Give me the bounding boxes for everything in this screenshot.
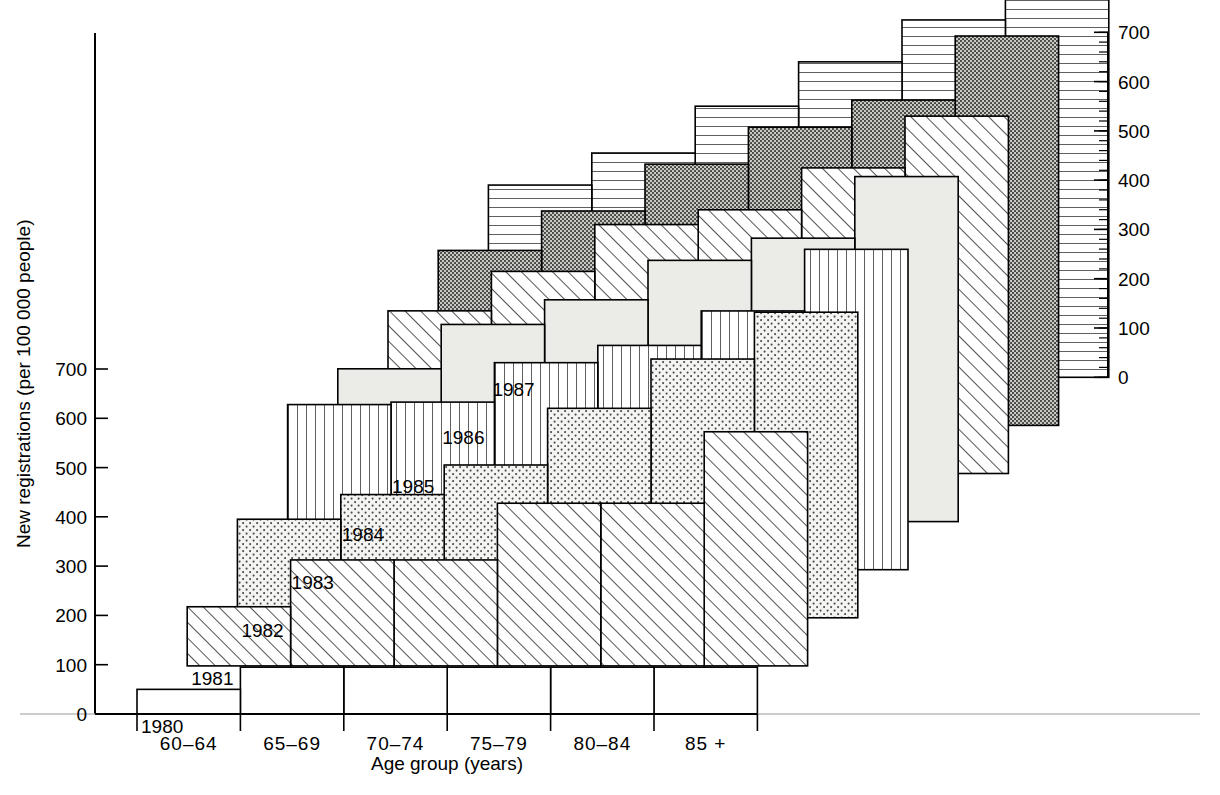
year-label-1985: 1985 (392, 476, 434, 497)
y-tick-label-left: 300 (55, 556, 87, 577)
bar-1980-85+ (654, 667, 757, 714)
y-axis-title: New registrations (per 100 000 people) (13, 220, 34, 548)
year-label-1982: 1982 (241, 620, 283, 641)
y-tick-label-right: 400 (1118, 170, 1150, 191)
y-tick-label-right: 500 (1118, 121, 1150, 142)
x-tick-label-0: 60–64 (160, 733, 218, 754)
y-tick-label-left: 200 (55, 605, 87, 626)
year-label-1981: 1981 (191, 668, 233, 689)
y-tick-label-left: 400 (55, 507, 87, 528)
y-tick-label-right: 600 (1118, 72, 1150, 93)
year-label-1987: 1987 (492, 379, 534, 400)
y-tick-label-right: 0 (1118, 367, 1129, 388)
x-tick-label-3: 75–79 (470, 733, 528, 754)
year-label-1986: 1986 (442, 427, 484, 448)
y-tick-label-right: 100 (1118, 318, 1150, 339)
bar-1981-70–74 (394, 560, 497, 666)
bar-1980-80–84 (551, 667, 654, 714)
chart-figure: 1987198619851984198319821981198001002003… (0, 0, 1220, 795)
bars-layer (137, 0, 1109, 714)
bar-1980-65–69 (240, 667, 343, 714)
y-tick-label-right: 200 (1118, 269, 1150, 290)
bar-1980-75–79 (447, 667, 550, 714)
y-tick-label-right: 700 (1118, 22, 1150, 43)
bar-1981-85+ (704, 432, 807, 666)
staggered-histogram: 1987198619851984198319821981198001002003… (0, 0, 1220, 795)
bar-1980-70–74 (344, 667, 447, 714)
x-tick-label-2: 70–74 (367, 733, 425, 754)
year-label-1984: 1984 (342, 524, 385, 545)
year-label-1983: 1983 (292, 572, 334, 593)
y-tick-label-left: 700 (55, 359, 87, 380)
bar-1980-60–64 (137, 689, 240, 714)
y-tick-label-right: 300 (1118, 219, 1150, 240)
x-axis-title: Age group (years) (371, 753, 523, 774)
bar-1981-75–79 (497, 503, 600, 666)
bar-1981-80–84 (601, 503, 704, 666)
x-tick-label-1: 65–69 (263, 733, 321, 754)
y-tick-label-left: 100 (55, 655, 87, 676)
y-tick-label-left: 0 (76, 704, 87, 725)
x-tick-label-5: 85 + (685, 733, 727, 754)
y-tick-label-left: 600 (55, 408, 87, 429)
x-tick-label-4: 80–84 (573, 733, 631, 754)
y-tick-label-left: 500 (55, 458, 87, 479)
